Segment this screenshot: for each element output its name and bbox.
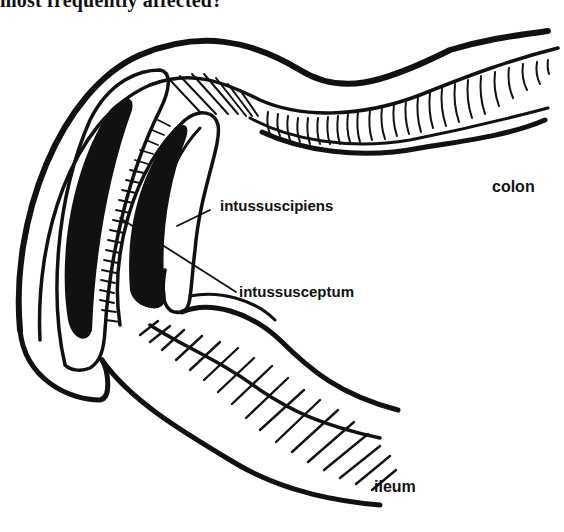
colon-mucosa-lower bbox=[250, 108, 548, 144]
ileum-outer-wall bbox=[102, 360, 380, 505]
label-intussusceptum: intussusceptum bbox=[239, 283, 354, 300]
ileum-inner-wall bbox=[150, 325, 380, 438]
colon-mucosa-hatching bbox=[170, 60, 549, 144]
intussusception-illustration bbox=[0, 0, 564, 532]
ileum-mucosa-hatching bbox=[140, 321, 396, 490]
label-ileum: ileum bbox=[374, 478, 416, 496]
label-colon: colon bbox=[492, 178, 535, 196]
intussuscipiens-leader bbox=[177, 210, 210, 226]
ileum-upper-wall bbox=[182, 307, 398, 410]
label-intussuscipiens: intussuscipiens bbox=[220, 197, 333, 214]
